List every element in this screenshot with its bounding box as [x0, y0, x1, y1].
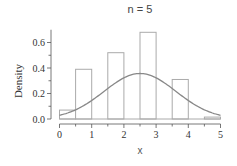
histogram-bar [76, 69, 92, 119]
y-tick-label: 0.2 [33, 88, 46, 99]
x-tick-label: 4 [186, 129, 191, 140]
x-tick-label: 2 [121, 129, 126, 140]
y-tick-label: 0.6 [33, 37, 46, 48]
histogram-bar [108, 53, 124, 119]
x-axis-label: x [138, 145, 143, 156]
y-tick-label: 0.0 [33, 114, 46, 125]
x-tick-label: 5 [218, 129, 223, 140]
y-axis: 0.00.20.40.6 [33, 30, 52, 125]
y-axis-label: Density [12, 63, 24, 98]
x-tick-label: 1 [89, 129, 94, 140]
x-tick-label: 0 [57, 129, 62, 140]
histogram-chart: n = 5 0.00.20.40.6 012345 Density x [0, 0, 237, 166]
y-tick-label: 0.4 [33, 63, 46, 74]
histogram-bar [140, 32, 156, 119]
chart-title: n = 5 [128, 3, 153, 15]
x-axis: 012345 [57, 124, 223, 140]
x-tick-label: 3 [154, 129, 159, 140]
